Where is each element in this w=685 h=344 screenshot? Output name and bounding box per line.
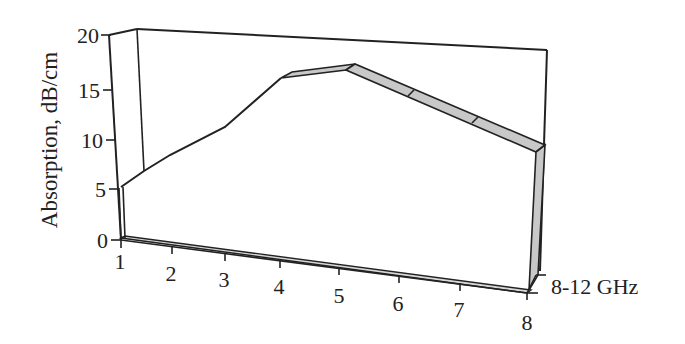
chart-box-frame [109, 29, 547, 271]
x-tick-7: 7 [454, 297, 465, 322]
y-axis-title: Absorption, dB/cm [37, 52, 62, 228]
x-tick-8: 8 [522, 310, 533, 335]
left-edge-ribbon [119, 187, 125, 240]
x-tick-5: 5 [334, 283, 345, 308]
x-tick-6: 6 [393, 291, 404, 316]
x-tick-1: 1 [115, 249, 126, 274]
x-tick-2: 2 [166, 261, 177, 286]
depth-axis: 8-12 GHz [527, 274, 639, 299]
y-tick-15: 15 [78, 78, 100, 103]
y-axis: 20 15 10 5 0 Absorption, dB/cm [37, 23, 121, 253]
absorption-3d-chart: 20 15 10 5 0 Absorption, dB/cm 1 2 3 4 5… [0, 0, 685, 344]
y-tick-5: 5 [95, 177, 106, 202]
floor-ribbon [121, 236, 531, 293]
x-tick-4: 4 [274, 274, 285, 299]
y-tick-0: 0 [97, 228, 108, 253]
data-series-8-12ghz [121, 64, 545, 290]
y-tick-20: 20 [77, 23, 99, 48]
depth-label: 8-12 GHz [551, 274, 639, 299]
x-axis: 1 2 3 4 5 6 7 8 [115, 240, 533, 335]
x-tick-3: 3 [219, 267, 230, 292]
y-tick-10: 10 [81, 128, 103, 153]
